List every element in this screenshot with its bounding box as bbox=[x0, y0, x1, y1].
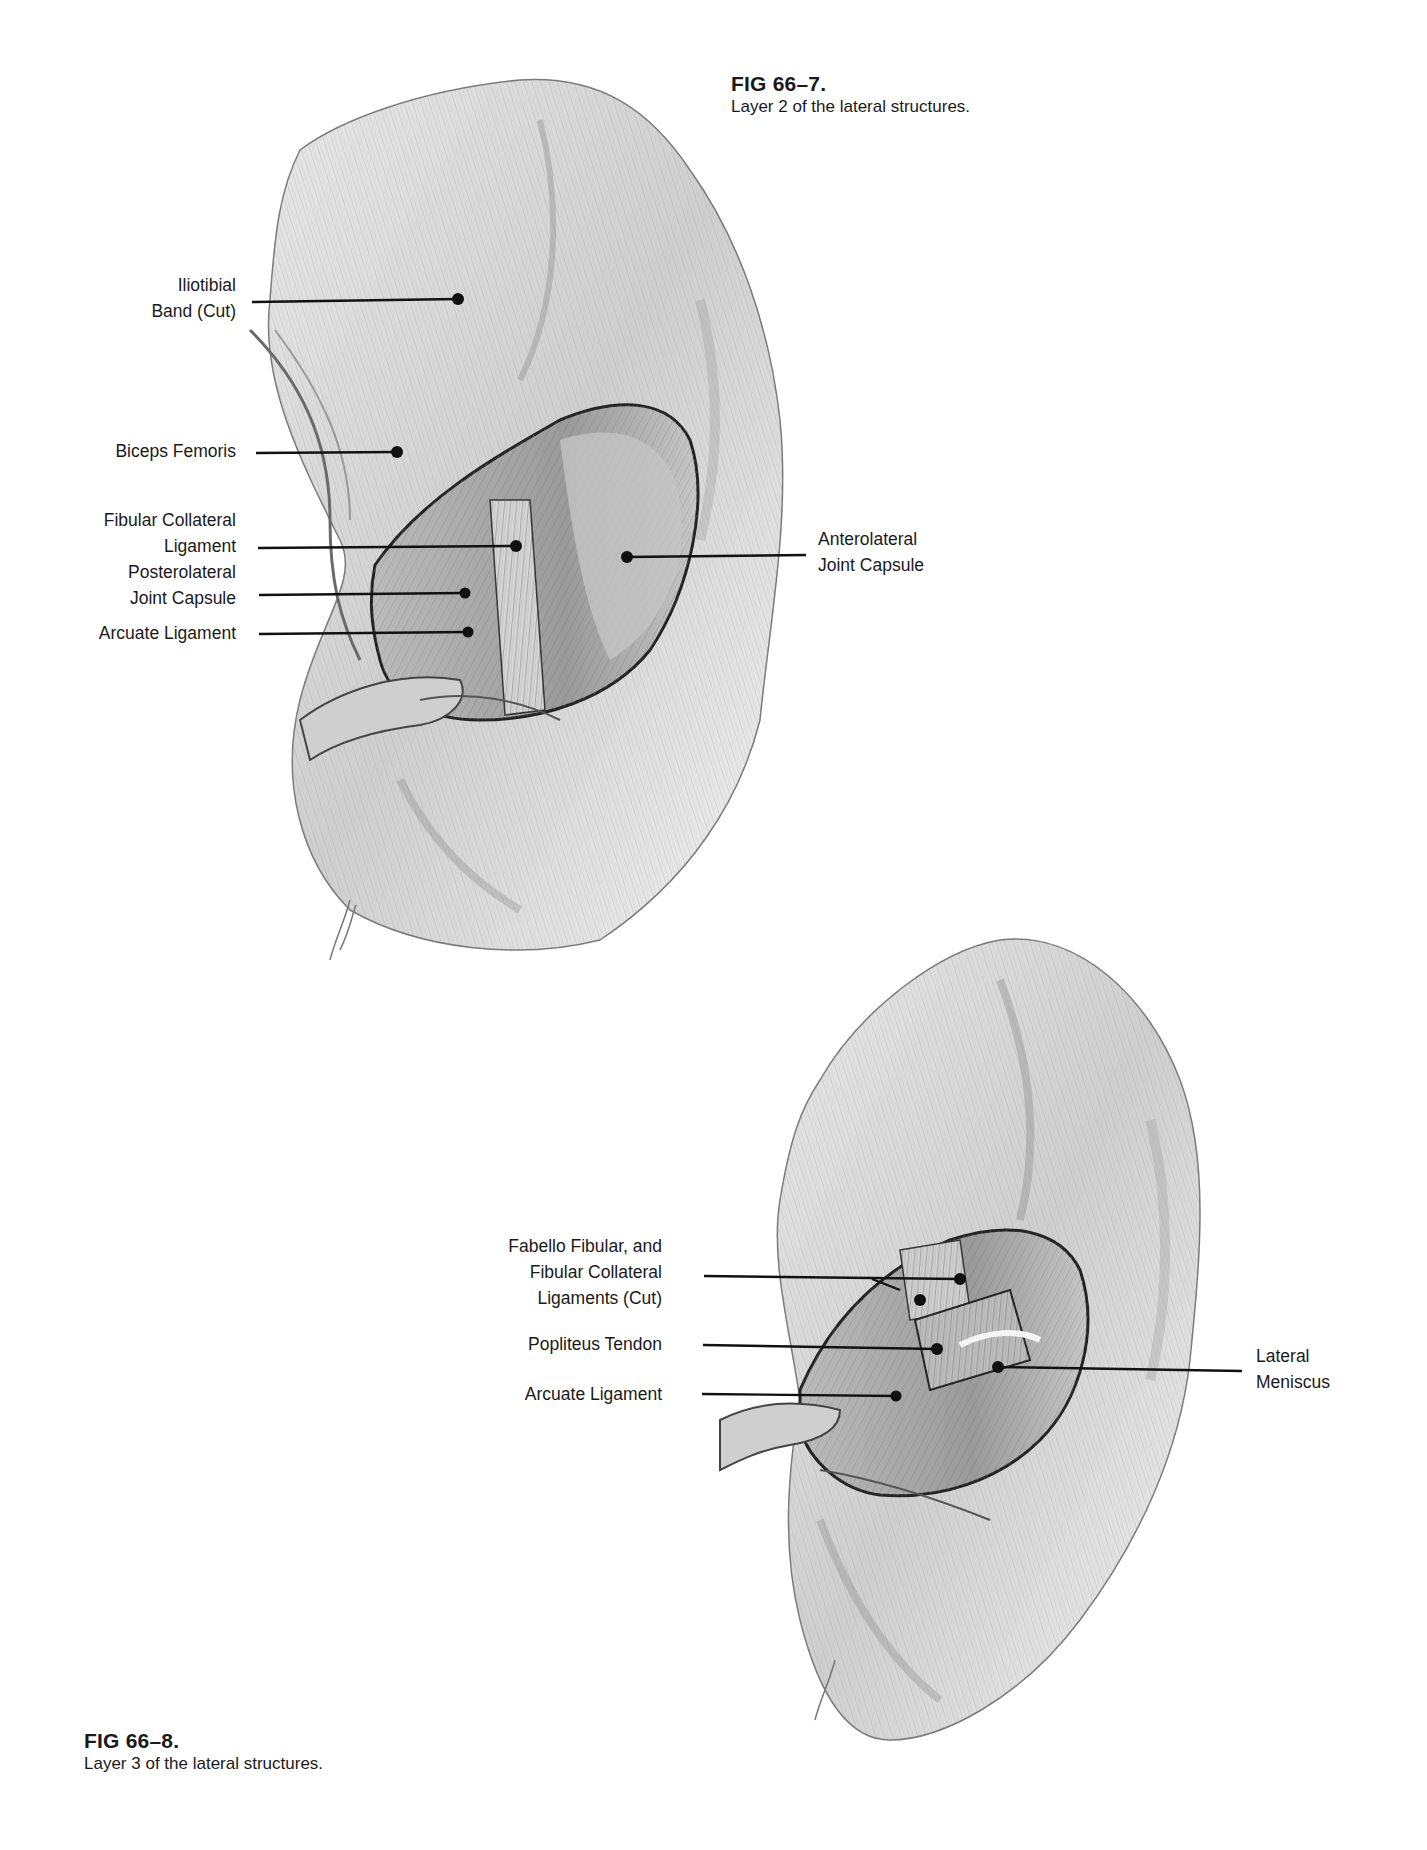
label-line: Fibular Collateral bbox=[104, 507, 236, 533]
label-arcuate-ligament: Arcuate Ligament bbox=[99, 620, 236, 646]
label-line: Lateral bbox=[1256, 1343, 1330, 1369]
figure-number: FIG 66–8. bbox=[84, 1729, 323, 1753]
label-line: Ligaments (Cut) bbox=[508, 1285, 662, 1311]
figure-caption-66-8: FIG 66–8. Layer 3 of the lateral structu… bbox=[84, 1729, 323, 1774]
fig-66-7-drawing bbox=[250, 80, 783, 960]
label-line: Fabello Fibular, and bbox=[508, 1233, 662, 1259]
figure-caption-66-7: FIG 66–7. Layer 2 of the lateral structu… bbox=[731, 72, 970, 117]
label-line: Joint Capsule bbox=[128, 585, 236, 611]
label-line: Biceps Femoris bbox=[115, 438, 236, 464]
label-line: Arcuate Ligament bbox=[525, 1381, 662, 1407]
figure-description: Layer 2 of the lateral structures. bbox=[731, 97, 970, 117]
label-line: Anterolateral bbox=[818, 526, 924, 552]
label-line: Meniscus bbox=[1256, 1369, 1330, 1395]
label-line: Popliteus Tendon bbox=[528, 1331, 662, 1357]
label-line: Joint Capsule bbox=[818, 552, 924, 578]
book-page: FIG 66–7. Layer 2 of the lateral structu… bbox=[0, 0, 1427, 1850]
figure-number: FIG 66–7. bbox=[731, 72, 970, 96]
label-line: Iliotibial bbox=[151, 272, 236, 298]
label-line: Ligament bbox=[104, 533, 236, 559]
label-lateral-meniscus: Lateral Meniscus bbox=[1256, 1343, 1330, 1395]
label-anterolateral-joint-capsule: Anterolateral Joint Capsule bbox=[818, 526, 924, 578]
label-line: Band (Cut) bbox=[151, 298, 236, 324]
figure-description: Layer 3 of the lateral structures. bbox=[84, 1754, 323, 1774]
label-fibular-collateral-ligament: Fibular Collateral Ligament bbox=[104, 507, 236, 559]
label-line: Arcuate Ligament bbox=[99, 620, 236, 646]
label-popliteus-tendon: Popliteus Tendon bbox=[528, 1331, 662, 1357]
label-fabello-fibular-ligaments: Fabello Fibular, and Fibular Collateral … bbox=[508, 1233, 662, 1311]
label-line: Posterolateral bbox=[128, 559, 236, 585]
label-posterolateral-joint-capsule: Posterolateral Joint Capsule bbox=[128, 559, 236, 611]
label-line: Fibular Collateral bbox=[508, 1259, 662, 1285]
fig-66-8-drawing bbox=[720, 939, 1200, 1740]
label-arcuate-ligament-2: Arcuate Ligament bbox=[525, 1381, 662, 1407]
label-iliotibial-band: Iliotibial Band (Cut) bbox=[151, 272, 236, 324]
label-biceps-femoris: Biceps Femoris bbox=[115, 438, 236, 464]
